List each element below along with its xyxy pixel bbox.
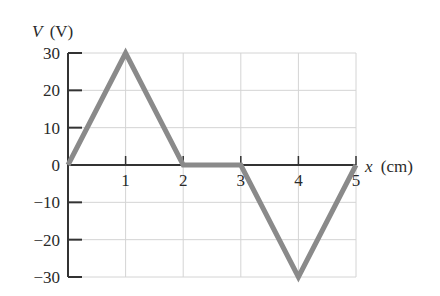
y-tick-label: −20 [33,231,60,250]
y-tick-label: 20 [43,81,60,100]
y-axis-unit: (V) [50,22,74,41]
x-axis-variable: x [364,157,373,176]
y-tick-label: 0 [52,156,61,175]
y-tick-label: −30 [33,268,60,287]
x-tick-label: 1 [121,171,130,190]
voltage-position-chart: 3020100−10−20−3012345 V (V) x (cm) [0,0,440,296]
x-tick-label: 2 [179,171,188,190]
x-axis-unit: (cm) [381,157,413,176]
y-axis-variable: V [32,22,45,41]
y-axis-label: V (V) [32,22,73,41]
y-tick-label: 30 [43,44,60,63]
y-tick-label: 10 [43,119,60,138]
y-tick-label: −10 [33,193,60,212]
x-axis-label: x (cm) [364,157,413,176]
x-tick-label: 4 [294,171,303,190]
